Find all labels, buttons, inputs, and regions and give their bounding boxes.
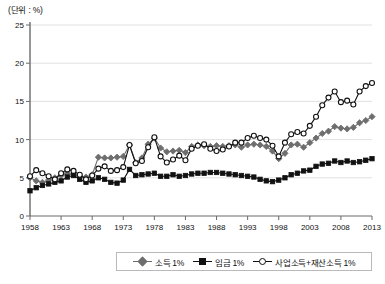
data-point-marker [152,135,157,140]
data-point-marker [338,125,344,131]
chart-container: (단위 : %) 0510152025 19581963196819731978… [0,0,385,284]
data-point-marker [227,172,231,176]
data-point-marker [183,158,188,163]
data-point-marker [351,102,356,107]
data-point-marker [121,165,126,170]
legend-item-series-income[interactable]: 소득 1% [133,256,184,268]
data-point-marker [326,161,330,165]
data-point-marker [115,168,120,173]
data-point-marker [314,114,319,119]
data-point-marker [295,129,300,134]
data-point-marker [127,142,132,147]
data-point-marker [164,160,169,165]
legend-item-label: 임금 1% [215,256,244,268]
x-tick-label: 1958 [21,223,39,232]
data-point-marker [251,141,257,147]
data-point-marker [189,146,194,151]
legend-item-series-business-property[interactable]: 사업소득+재산소득 1% [253,256,355,268]
data-point-marker [140,173,144,177]
data-point-marker [202,142,207,147]
data-point-marker [264,179,268,183]
data-point-marker [270,143,275,148]
data-point-marker [96,176,100,180]
x-tick-label: 1998 [270,223,288,232]
data-point-marker [332,159,336,163]
data-point-marker [214,149,219,154]
data-point-marker [170,148,176,154]
data-point-marker [270,179,274,183]
data-point-marker [307,123,312,128]
gridlines [30,25,372,178]
legend-item-label: 사업소득+재산소득 1% [275,256,355,268]
x-tick-label: 1993 [239,223,257,232]
data-point-marker [177,153,182,158]
data-point-marker [363,84,368,89]
data-point-marker [96,166,101,171]
data-point-marker [326,95,331,100]
data-point-marker [363,117,369,123]
data-point-marker [345,98,350,103]
data-point-marker [40,171,45,176]
data-point-marker [102,155,108,161]
x-tick-label: 1973 [114,223,132,232]
x-tick-label: 2013 [363,223,381,232]
axes [30,22,372,216]
data-point-marker [245,174,249,178]
data-point-marker [258,136,263,141]
data-point-marker [208,146,213,151]
data-point-marker [83,177,88,182]
data-point-marker [339,160,343,164]
data-point-marker [233,173,237,177]
data-point-marker [71,168,76,173]
data-point-marker [28,189,32,193]
data-point-marker [214,170,218,174]
data-point-marker [332,89,337,94]
data-point-marker [108,155,114,161]
data-point-marker [59,179,63,183]
data-point-marker [59,171,64,176]
data-point-marker [308,168,312,172]
data-point-marker [338,100,343,105]
data-point-marker [34,186,38,190]
data-point-marker [90,173,95,178]
chart-plot-area: 0510152025 19581963196819731978198319881… [0,0,385,250]
data-point-marker [369,114,375,120]
data-point-marker [46,174,51,179]
data-point-marker [289,173,293,177]
x-tick-label: 1968 [83,223,101,232]
data-point-marker [344,126,350,132]
y-tick-label: 20 [15,59,24,68]
data-point-marker [95,154,101,160]
data-series-layer [27,81,375,193]
data-point-marker [65,175,69,179]
data-point-marker [289,132,294,137]
data-point-marker [370,81,375,86]
chart-legend: 소득 1%임금 1%사업소득+재산소득 1% [116,252,372,271]
legend-item-label: 소득 1% [155,256,184,268]
data-point-marker [108,168,113,173]
legend-item-series-wage[interactable]: 임금 1% [193,256,244,268]
data-point-marker [127,167,131,171]
data-point-marker [52,177,57,182]
y-tick-label: 15 [15,97,24,106]
y-tick-label: 10 [15,136,24,145]
data-point-marker [114,154,120,160]
data-point-marker [276,154,281,159]
data-point-marker [208,170,212,174]
data-point-marker [40,183,44,187]
data-point-marker [294,141,300,147]
y-tick-label: 0 [20,212,25,221]
data-point-marker [152,171,156,175]
data-point-marker [282,140,287,145]
data-point-marker [158,174,162,178]
y-tick-label: 5 [20,174,25,183]
data-point-marker [139,158,144,163]
data-point-marker [252,175,256,179]
data-point-marker [133,161,138,166]
data-point-marker [370,157,374,161]
data-point-marker [351,160,355,164]
data-point-marker [158,154,163,159]
data-point-marker [134,173,138,177]
data-point-marker [295,171,299,175]
data-point-marker [177,174,181,178]
